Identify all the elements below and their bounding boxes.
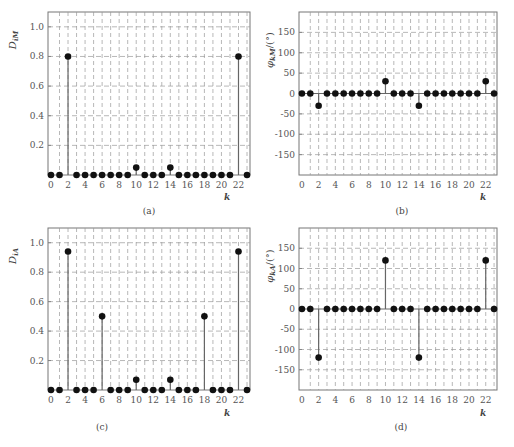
y-tick-label: 50 [284,284,296,294]
data-point [457,306,464,313]
data-point [399,90,406,97]
data-point [340,90,347,97]
x-tick-label: 0 [48,395,54,405]
x-tick-label: 14 [413,180,425,190]
y-tick-label: 150 [278,27,295,37]
y-tick-label: 0.8 [30,51,45,61]
x-tick-label: 18 [199,180,211,190]
y-tick-label: 0.4 [30,326,45,336]
x-tick-label: 6 [349,395,355,405]
data-point [382,257,389,264]
data-point [432,306,439,313]
chart-b: -150-100-500501001500246810121416182022φ… [257,0,514,224]
y-tick-label: 100 [278,264,295,274]
x-axis-label-a: k [224,192,230,202]
data-point [167,164,174,171]
data-point [141,387,148,394]
data-point [307,306,314,313]
x-tick-label: 6 [99,395,105,405]
data-point [193,387,200,394]
x-tick-label: 20 [216,180,228,190]
x-tick-label: 10 [130,395,142,405]
data-point [184,387,191,394]
data-point [357,90,364,97]
data-point [48,387,55,394]
data-point [391,90,398,97]
x-tick-label: 4 [332,395,338,405]
data-point [133,164,140,171]
data-point [349,306,356,313]
plot-frame [48,12,250,175]
data-point [133,376,140,383]
x-tick-label: 20 [216,395,228,405]
data-point [466,306,473,313]
x-tick-label: 12 [396,180,407,190]
x-tick-label: 16 [430,395,442,405]
y-tick-label: 0.4 [30,111,45,121]
x-tick-label: 0 [48,180,54,190]
x-tick-label: 10 [380,180,392,190]
x-tick-label: 14 [413,395,425,405]
data-point [90,387,97,394]
data-point [107,172,114,179]
x-tick-label: 16 [430,180,442,190]
data-point [201,172,208,179]
svg-text:Di̇A: Di̇A [7,247,20,265]
x-tick-label: 20 [463,180,475,190]
data-point [299,306,306,313]
data-point [167,376,174,383]
data-point [48,172,55,179]
panel-d: -150-100-500501001500246810121416182022φ… [257,224,514,447]
x-tick-label: 4 [82,395,88,405]
data-point [227,172,234,179]
data-point [193,172,200,179]
caption-d: (d) [381,422,421,432]
x-tick-label: 0 [299,395,305,405]
y-tick-label: -50 [281,109,296,119]
data-point [107,387,114,394]
panel-c: 0.20.40.60.81.00246810121416182022Di̇A k… [0,224,257,447]
x-tick-label: 16 [182,180,194,190]
y-tick-label: 0.6 [30,297,45,307]
data-point [90,172,97,179]
data-point [56,172,63,179]
x-tick-label: 22 [233,395,244,405]
x-tick-label: 22 [480,180,491,190]
y-tick-label: 150 [278,243,295,253]
data-point [244,172,251,179]
data-point [416,102,423,109]
data-point [299,90,306,97]
data-point [449,90,456,97]
y-tick-label: 100 [278,48,295,58]
data-point [141,172,148,179]
data-point [315,354,322,361]
y-tick-label: 1.0 [30,22,45,32]
y-tick-label: 0.6 [30,81,45,91]
data-point [210,172,217,179]
data-point [332,90,339,97]
data-point [374,306,381,313]
x-tick-label: 20 [463,395,475,405]
x-tick-label: 8 [116,395,122,405]
x-tick-label: 18 [447,180,459,190]
data-point [449,306,456,313]
data-point [474,306,481,313]
chart-a: 0.20.40.60.81.00246810121416182022Di̇M [0,0,257,224]
x-axis-label-c: k [224,408,230,418]
y-tick-label: 0 [289,304,295,314]
x-tick-label: 14 [165,395,177,405]
data-point [324,90,331,97]
data-point [244,387,251,394]
data-point [441,306,448,313]
data-point [150,387,157,394]
x-tick-label: 12 [148,180,159,190]
x-axis-label-d: k [480,408,486,418]
y-axis-label: Di̇A [7,247,20,265]
data-point [124,172,131,179]
data-point [482,78,489,85]
data-point [218,387,225,394]
data-point [176,172,183,179]
plot-frame [48,228,250,390]
y-axis-label: φkM/(°) [264,32,277,68]
caption-a: (a) [129,206,169,216]
